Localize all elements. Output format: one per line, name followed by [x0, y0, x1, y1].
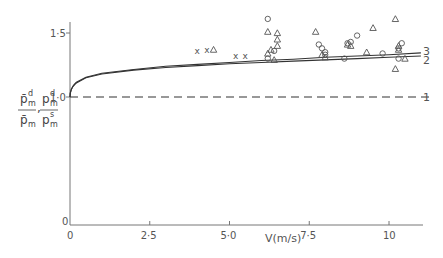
chart-figure: 01·01·502·55·07·510 xxxx p̄ d m p̄ m , p…: [0, 0, 443, 258]
curve-label-2: 2: [423, 54, 430, 67]
x-tick-label: 2·5: [141, 230, 157, 241]
circle-marker: [354, 33, 359, 38]
curve-2: [70, 56, 421, 97]
axis-labels: p̄ d m p̄ m , p d m p s m V(m/s) 3 2 1: [18, 45, 430, 245]
ylabel-den2: p: [42, 113, 50, 127]
curve-label-1: 1: [423, 91, 430, 104]
triangle-marker: [274, 36, 280, 42]
cross-marker: x: [204, 45, 210, 55]
ylabel-comma: ,: [37, 101, 41, 115]
ylabel-den1: p̄: [20, 113, 28, 127]
triangle-marker: [392, 16, 398, 22]
cross-marker: x: [195, 46, 201, 56]
triangle-marker: [370, 25, 376, 31]
triangle-marker: [274, 43, 280, 49]
ylabel-num1: p̄: [20, 92, 28, 106]
triangle-marker: [363, 49, 369, 55]
x-tick-label: 0: [67, 230, 73, 241]
ylabel-num2-sup: d: [50, 89, 55, 98]
x-tick-label: 10: [383, 230, 396, 241]
ylabel-num1-sup: d: [28, 89, 33, 98]
y-tick-label: 0: [62, 216, 68, 227]
cross-marker: x: [233, 51, 239, 61]
curves: [70, 53, 430, 97]
ylabel-den2-sub: m: [50, 120, 58, 129]
ylabel-num2-sub: m: [50, 99, 58, 108]
triangle-marker: [392, 66, 398, 72]
circle-marker: [265, 16, 270, 21]
cross-marker: x: [242, 51, 248, 61]
triangle-marker: [274, 30, 280, 36]
ylabel-den2-sup: s: [50, 110, 54, 119]
chart-svg: 01·01·502·55·07·510 xxxx p̄ d m p̄ m , p…: [0, 0, 443, 258]
ylabel-num1-sub: m: [28, 99, 36, 108]
y-tick-label: 1·5: [50, 28, 66, 39]
triangle-marker: [265, 50, 271, 56]
triangle-marker: [312, 29, 318, 35]
xaxis-label: V(m/s): [265, 232, 301, 245]
ylabel-den1-sub: m: [28, 120, 36, 129]
x-tick-label: 5·0: [221, 230, 237, 241]
x-tick-label: 7·5: [300, 230, 316, 241]
triangle-marker: [265, 29, 271, 35]
triangle-marker: [210, 46, 216, 52]
ylabel-num2: p: [42, 92, 50, 106]
